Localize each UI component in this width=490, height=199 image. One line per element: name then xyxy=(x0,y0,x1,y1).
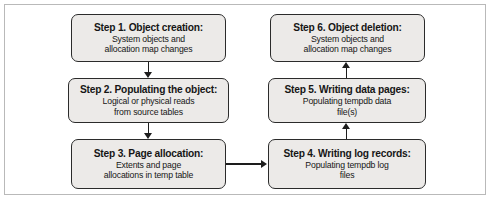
arrowhead-up-icon xyxy=(342,123,350,129)
connector-step2-to-step3 xyxy=(148,123,150,133)
connector-step5-to-step6 xyxy=(346,68,348,78)
flow-node-step5-title: Step 5. Writing data pages: xyxy=(284,84,409,96)
figure-frame: Step 1. Object creation: System objects … xyxy=(4,4,486,195)
flow-node-step2: Step 2. Populating the object: Logical o… xyxy=(68,78,229,123)
flow-node-step5: Step 5. Writing data pages: Populating t… xyxy=(268,78,426,123)
flow-node-step1-title: Step 1. Object creation: xyxy=(94,22,203,34)
arrowhead-down-icon xyxy=(144,133,152,139)
arrowhead-right-icon xyxy=(261,160,267,168)
flowchart-figure: Step 1. Object creation: System objects … xyxy=(0,0,490,199)
arrowhead-up-icon xyxy=(342,62,350,68)
flow-node-step2-description: Logical or physical reads from source ta… xyxy=(103,96,195,117)
flow-node-step4-title: Step 4. Writing log records: xyxy=(283,148,410,160)
connector-step4-to-step5 xyxy=(346,129,348,139)
flow-node-step5-description: Populating tempdb data file(s) xyxy=(303,96,391,117)
flow-node-step3-title: Step 3. Page allocation: xyxy=(94,148,204,160)
flow-node-step6-title: Step 6. Object deletion: xyxy=(293,22,401,34)
flow-node-step6: Step 6. Object deletion: System objects … xyxy=(270,14,425,62)
flow-node-step1: Step 1. Object creation: System objects … xyxy=(71,14,226,62)
flow-node-step2-title: Step 2. Populating the object: xyxy=(80,84,217,96)
connector-step3-to-step4 xyxy=(226,163,262,165)
arrowhead-down-icon xyxy=(144,72,152,78)
flow-node-step6-description: System objects and allocation map change… xyxy=(304,34,392,55)
flow-node-step4-description: Populating tempdb log files xyxy=(305,160,388,181)
flow-node-step1-description: System objects and allocation map change… xyxy=(105,34,193,55)
flow-node-step3-description: Extents and page allocations in temp tab… xyxy=(104,160,193,181)
flow-node-step4: Step 4. Writing log records: Populating … xyxy=(268,139,426,189)
flow-node-step3: Step 3. Page allocation: Extents and pag… xyxy=(71,139,226,189)
